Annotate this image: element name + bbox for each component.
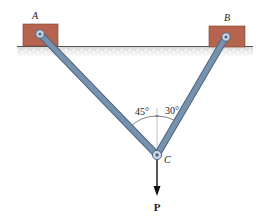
- frame-diagram: A B C 45° 30° P: [0, 0, 265, 219]
- angle-label-45: 45°: [135, 106, 149, 117]
- angle-arc-45: [129, 116, 157, 127]
- pin-a-icon: [36, 30, 44, 38]
- joint-label-c: C: [164, 154, 171, 165]
- pin-b-icon: [222, 33, 230, 41]
- support-label-b: B: [224, 12, 230, 23]
- angle-label-30: 30°: [165, 105, 179, 116]
- support-label-a: A: [31, 10, 39, 21]
- load-arrow-icon: [154, 160, 161, 196]
- load-label-p: P: [154, 201, 161, 213]
- pin-c-icon: [152, 150, 161, 159]
